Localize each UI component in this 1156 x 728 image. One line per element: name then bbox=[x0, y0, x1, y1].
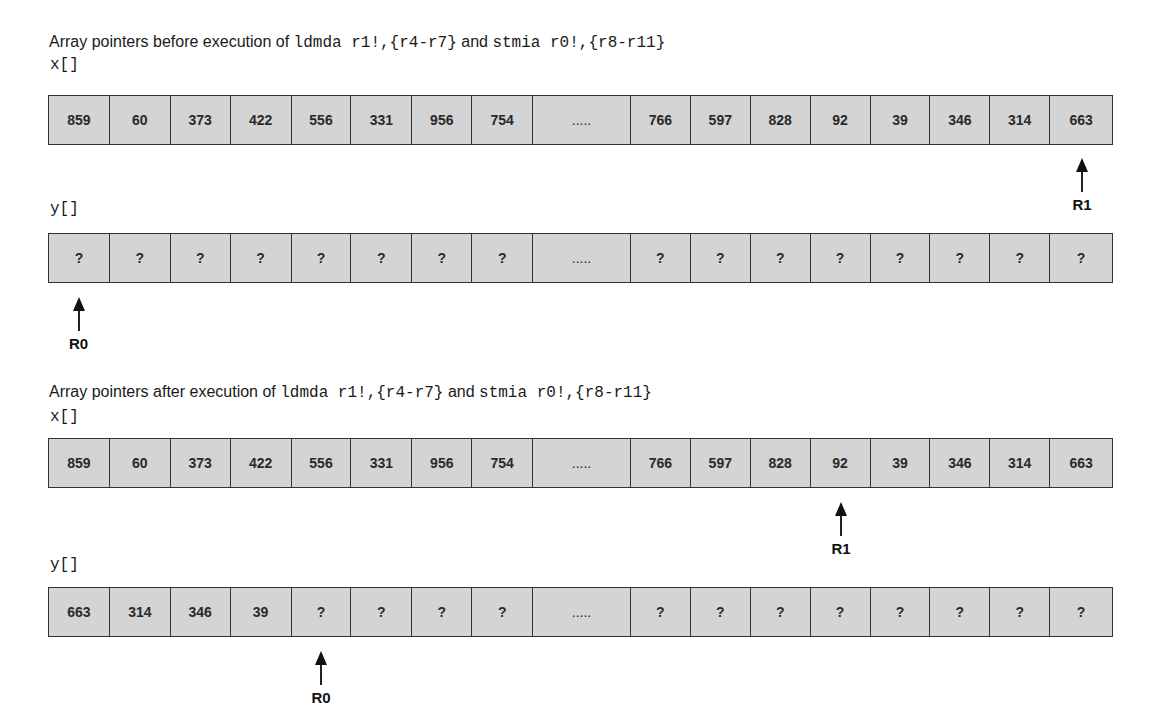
array-cell: 766 bbox=[631, 96, 691, 144]
array-cell: 663 bbox=[49, 588, 110, 636]
array-cell: ? bbox=[990, 588, 1050, 636]
title-text: Array pointers before execution of bbox=[49, 33, 294, 50]
r1-label: R1 bbox=[821, 540, 861, 557]
array-cell: ? bbox=[1050, 234, 1112, 282]
array-cell: ? bbox=[351, 588, 412, 636]
y-array-before: ????????.....???????? bbox=[48, 233, 1113, 283]
array-cell: 663 bbox=[1050, 96, 1112, 144]
instruction-stmia: stmia r0!,{r8-r11} bbox=[479, 384, 652, 402]
x-array-before: 85960373422556331956754.....766597828923… bbox=[48, 95, 1113, 145]
array-cell: 422 bbox=[231, 96, 292, 144]
title-text: Array pointers after execution of bbox=[49, 383, 280, 400]
arrow-up-icon bbox=[1076, 158, 1088, 172]
array-cell: 422 bbox=[231, 439, 292, 487]
array-cell: ? bbox=[472, 588, 533, 636]
array-cell: 373 bbox=[171, 96, 231, 144]
array-cell: ? bbox=[930, 588, 990, 636]
array-cell: 331 bbox=[351, 439, 412, 487]
array-cell: 331 bbox=[351, 96, 412, 144]
instruction-ldmda: ldmda r1!,{r4-r7} bbox=[294, 34, 457, 52]
array-cell: ? bbox=[231, 234, 292, 282]
x-array-after: 85960373422556331956754.....766597828923… bbox=[48, 438, 1113, 488]
array-cell: 92 bbox=[811, 439, 871, 487]
array-cell: 346 bbox=[930, 96, 990, 144]
array-cell: 314 bbox=[990, 96, 1050, 144]
array-cell: 92 bbox=[811, 96, 871, 144]
y-array-label-after: y[] bbox=[50, 556, 79, 574]
arrow-shaft bbox=[78, 311, 80, 331]
array-cell: ? bbox=[292, 234, 352, 282]
r0-pointer-after: R0 bbox=[301, 651, 341, 706]
array-cell: 556 bbox=[292, 439, 352, 487]
array-cell: ? bbox=[691, 588, 751, 636]
array-cell: ? bbox=[49, 234, 110, 282]
array-cell: ? bbox=[110, 234, 171, 282]
array-cell: ? bbox=[171, 234, 231, 282]
array-cell: ? bbox=[990, 234, 1050, 282]
array-cell: ? bbox=[631, 588, 691, 636]
r0-label: R0 bbox=[59, 335, 99, 352]
array-cell: 346 bbox=[171, 588, 231, 636]
array-cell: 39 bbox=[871, 96, 931, 144]
array-cell: 859 bbox=[49, 96, 110, 144]
array-cell: 956 bbox=[412, 439, 472, 487]
arrow-shaft bbox=[840, 516, 842, 536]
array-cell: 39 bbox=[871, 439, 931, 487]
array-cell: ? bbox=[871, 234, 931, 282]
arrow-up-icon bbox=[315, 651, 327, 665]
ellipsis-cell: ..... bbox=[533, 588, 631, 636]
array-cell: 39 bbox=[231, 588, 292, 636]
ellipsis-cell: ..... bbox=[533, 234, 631, 282]
array-cell: 314 bbox=[990, 439, 1050, 487]
r1-pointer-after: R1 bbox=[821, 502, 861, 557]
ellipsis-cell: ..... bbox=[533, 96, 631, 144]
array-cell: 828 bbox=[751, 439, 811, 487]
array-cell: 859 bbox=[49, 439, 110, 487]
array-cell: ? bbox=[412, 234, 472, 282]
x-array-label-after: x[] bbox=[50, 408, 79, 426]
title-conj: and bbox=[457, 33, 493, 50]
array-cell: ? bbox=[1050, 588, 1112, 636]
array-cell: 766 bbox=[631, 439, 691, 487]
array-cell: ? bbox=[751, 234, 811, 282]
array-cell: ? bbox=[691, 234, 751, 282]
x-array-label-before: x[] bbox=[50, 56, 79, 74]
array-cell: 60 bbox=[110, 96, 171, 144]
arrow-shaft bbox=[320, 665, 322, 685]
array-cell: 556 bbox=[292, 96, 352, 144]
array-cell: ? bbox=[472, 234, 533, 282]
array-cell: ? bbox=[811, 234, 871, 282]
array-cell: 597 bbox=[691, 96, 751, 144]
array-cell: 597 bbox=[691, 439, 751, 487]
array-cell: 373 bbox=[171, 439, 231, 487]
array-cell: 663 bbox=[1050, 439, 1112, 487]
array-cell: 60 bbox=[110, 439, 171, 487]
array-cell: ? bbox=[412, 588, 472, 636]
instruction-ldmda: ldmda r1!,{r4-r7} bbox=[280, 384, 443, 402]
array-cell: ? bbox=[351, 234, 412, 282]
arrow-up-icon bbox=[835, 502, 847, 516]
r1-pointer-before: R1 bbox=[1062, 158, 1102, 213]
array-cell: ? bbox=[631, 234, 691, 282]
r1-label: R1 bbox=[1062, 196, 1102, 213]
arrow-shaft bbox=[1081, 172, 1083, 192]
title-conj: and bbox=[443, 383, 479, 400]
array-cell: 956 bbox=[412, 96, 472, 144]
instruction-stmia: stmia r0!,{r8-r11} bbox=[492, 34, 665, 52]
array-cell: 314 bbox=[110, 588, 171, 636]
ellipsis-cell: ..... bbox=[533, 439, 631, 487]
array-cell: ? bbox=[871, 588, 931, 636]
array-cell: 828 bbox=[751, 96, 811, 144]
array-cell: 346 bbox=[930, 439, 990, 487]
array-cell: 754 bbox=[472, 439, 533, 487]
title-after: Array pointers after execution of ldmda … bbox=[49, 383, 652, 402]
array-cell: ? bbox=[292, 588, 352, 636]
arrow-up-icon bbox=[73, 297, 85, 311]
r0-pointer-before: R0 bbox=[59, 297, 99, 352]
title-before: Array pointers before execution of ldmda… bbox=[49, 33, 665, 52]
array-cell: ? bbox=[930, 234, 990, 282]
r0-label: R0 bbox=[301, 689, 341, 706]
array-cell: ? bbox=[751, 588, 811, 636]
y-array-after: 66331434639????.....???????? bbox=[48, 587, 1113, 637]
array-cell: ? bbox=[811, 588, 871, 636]
